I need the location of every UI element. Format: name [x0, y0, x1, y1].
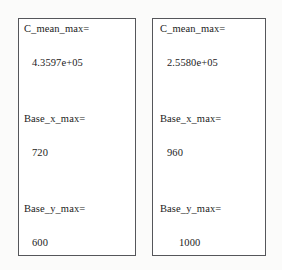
field-value-base-y-max: 1000	[153, 237, 265, 249]
field-c-mean-max: C_mean_max= 4.3597e+05	[19, 23, 135, 69]
field-base-x-max: Base_x_max= 720	[19, 113, 135, 159]
field-value-base-x-max: 960	[153, 147, 265, 159]
field-value-c-mean-max: 4.3597e+05	[19, 57, 135, 69]
field-label-c-mean-max: C_mean_max=	[19, 23, 135, 35]
field-label-base-y-max: Base_y_max=	[153, 203, 265, 215]
panel-container: C_mean_max= 4.3597e+05 Base_x_max= 720 B…	[0, 0, 282, 270]
left-panel: C_mean_max= 4.3597e+05 Base_x_max= 720 B…	[18, 18, 136, 256]
field-label-c-mean-max: C_mean_max=	[153, 23, 265, 35]
field-value-c-mean-max: 2.5580e+05	[153, 57, 265, 69]
field-c-mean-max: C_mean_max= 2.5580e+05	[153, 23, 265, 69]
field-value-base-y-max: 600	[19, 237, 135, 249]
right-panel: C_mean_max= 2.5580e+05 Base_x_max= 960 B…	[152, 18, 266, 256]
field-base-y-max: Base_y_max= 600	[19, 203, 135, 249]
field-base-y-max: Base_y_max= 1000	[153, 203, 265, 249]
field-base-x-max: Base_x_max= 960	[153, 113, 265, 159]
field-value-base-x-max: 720	[19, 147, 135, 159]
field-label-base-x-max: Base_x_max=	[19, 113, 135, 125]
field-label-base-x-max: Base_x_max=	[153, 113, 265, 125]
field-label-base-y-max: Base_y_max=	[19, 203, 135, 215]
